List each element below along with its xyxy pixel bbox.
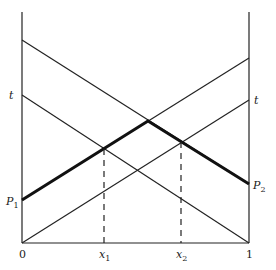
p2-label: P2 — [252, 179, 266, 194]
diagram-canvas: t t P1 P2 0 1 x1 x2 — [0, 0, 276, 270]
zero-label: 0 — [19, 248, 26, 261]
t-ascending-line — [22, 100, 249, 243]
t-right-label: t — [254, 94, 259, 107]
t-descending-line — [22, 95, 249, 243]
p1-label: P1 — [5, 195, 19, 210]
p1-sub: 1 — [13, 201, 18, 210]
x1-sub: 1 — [105, 254, 110, 263]
x2-label: x2 — [176, 248, 187, 263]
x1-label: x1 — [99, 248, 110, 263]
bold-envelope-path — [22, 121, 249, 200]
one-label: 1 — [246, 248, 253, 261]
p2-sub: 2 — [260, 185, 265, 194]
x2-sub: 2 — [182, 254, 187, 263]
t-left-label: t — [9, 89, 14, 102]
